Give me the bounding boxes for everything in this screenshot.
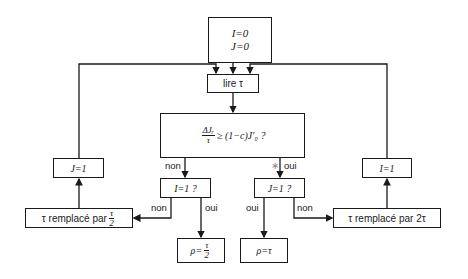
edge-label-i-oui: oui	[205, 202, 218, 213]
rho-half-box: ρ= τ 2	[177, 238, 225, 263]
edge-label-j-oui: oui	[246, 202, 259, 213]
init-i: I=0	[232, 27, 249, 40]
i-check-box: I=1 ?	[160, 178, 211, 198]
edge-label-i-non: non	[151, 202, 167, 213]
edge-label-cond-star: ∗	[271, 160, 279, 171]
edge-label-cond-non: non	[165, 160, 181, 171]
halve-tau-box: τ remplacé par τ 2	[25, 208, 133, 228]
j-check-box: J=1 ?	[254, 178, 305, 198]
condition-box: ΔJᵣ τ ≥ (1−c)J′₀ ?	[160, 113, 305, 158]
init-j: J=0	[231, 40, 249, 53]
condition-rhs: ≥ (1−c)J′₀ ?	[217, 129, 265, 142]
rho-box: ρ=τ	[240, 238, 288, 263]
read-box: lire τ	[207, 74, 259, 93]
condition-fraction: ΔJᵣ τ	[202, 126, 216, 145]
init-box: I=0 J=0	[208, 17, 272, 63]
read-label: lire τ	[223, 77, 243, 90]
set-j-box: J=1	[53, 158, 104, 178]
double-tau-box: τ remplacé par 2τ	[333, 208, 441, 228]
edge-label-j-non: non	[297, 202, 313, 213]
set-i-box: I=1	[362, 158, 412, 178]
edge-label-cond-oui: oui	[284, 160, 297, 171]
flowchart: I=0 J=0 lire τ ΔJᵣ τ ≥ (1−c)J′₀ ? J=1 I=…	[0, 0, 468, 279]
